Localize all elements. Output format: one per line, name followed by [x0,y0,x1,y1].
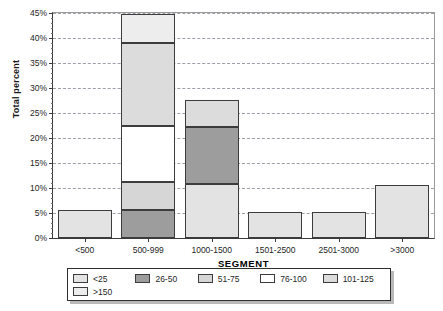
y-tick-minor [51,58,54,59]
y-tick-minor [51,148,54,149]
y-tick-minor [51,123,54,124]
chart-container: Total percent 45%40%35%30%25%20%15%10%5%… [0,0,443,311]
chart-legend: <2526-5051-7576-100101-125 >150 [67,268,391,301]
legend-item[interactable]: <25 [73,272,135,285]
bar-group[interactable]: >3000 [375,13,429,238]
y-tick-label: 45% [30,8,47,18]
y-axis-title: Total percent [11,29,21,149]
y-tick-minor [51,93,54,94]
legend-swatch [198,274,213,283]
y-tick-mark [49,113,53,114]
bar-stack [312,13,366,238]
bar-segment[interactable] [121,126,175,182]
y-tick-mark [49,13,53,14]
legend-swatch [260,274,275,283]
y-tick-mark [49,63,53,64]
y-tick-minor [51,143,54,144]
bar-segment[interactable] [121,14,175,43]
legend-item[interactable]: 101-125 [323,272,385,285]
bar-stack [375,13,429,238]
y-tick-minor [51,168,54,169]
y-tick-minor [51,218,54,219]
y-tick-minor [51,53,54,54]
y-tick-label: 40% [30,33,47,43]
x-tick-label: <500 [75,245,94,255]
legend-item[interactable]: 26-50 [135,272,197,285]
bar-stack [58,13,112,238]
legend-row: >150 [73,285,385,298]
bar-group[interactable]: 2501-3000 [312,13,366,238]
y-tick-mark [49,138,53,139]
y-tick-minor [51,23,54,24]
bar-segment[interactable] [185,184,239,239]
x-tick-mark [85,238,86,242]
y-tick-minor [51,118,54,119]
y-tick-minor [51,98,54,99]
y-tick-mark [49,163,53,164]
bar-segment[interactable] [248,212,302,239]
y-tick-minor [51,228,54,229]
x-tick-mark [212,238,213,242]
bar-group[interactable]: <500 [58,13,112,238]
legend-swatch [135,274,150,283]
bar-group[interactable]: 1000-1500 [185,13,239,238]
y-tick-mark [49,213,53,214]
x-tick-mark [148,238,149,242]
plot-frame: 45%40%35%30%25%20%15%10%5%0%<500500-9991… [52,12,435,239]
y-tick-minor [51,183,54,184]
legend-row: <2526-5051-7576-100101-125 [73,272,385,285]
legend-swatch [73,274,88,283]
y-tick-minor [51,193,54,194]
legend-label: 51-75 [218,274,240,284]
y-tick-minor [51,208,54,209]
y-tick-minor [51,103,54,104]
bar-group[interactable]: 1501-2500 [248,13,302,238]
legend-label: 26-50 [155,274,177,284]
y-tick-minor [51,68,54,69]
y-tick-minor [51,108,54,109]
x-tick-label: 2501-3000 [318,245,359,255]
bar-group[interactable]: 500-999 [121,13,175,238]
bar-segment[interactable] [185,100,239,127]
legend-item[interactable]: 76-100 [260,272,322,285]
legend-swatch [73,287,88,296]
y-tick-minor [51,33,54,34]
bar-stack [185,13,239,238]
y-tick-minor [51,178,54,179]
y-tick-minor [51,43,54,44]
bar-segment[interactable] [58,210,112,238]
y-tick-minor [51,233,54,234]
plot-area: 45%40%35%30%25%20%15%10%5%0%<500500-9991… [53,13,434,238]
bar-segment[interactable] [375,185,429,238]
y-tick-label: 20% [30,133,47,143]
bar-segment[interactable] [312,212,366,238]
y-tick-minor [51,83,54,84]
x-tick-label: 1000-1500 [191,245,232,255]
y-tick-minor [51,198,54,199]
y-tick-minor [51,73,54,74]
bar-stack [121,13,175,238]
legend-item[interactable]: 51-75 [198,272,260,285]
y-tick-label: 10% [30,183,47,193]
y-tick-minor [51,28,54,29]
y-tick-mark [49,88,53,89]
bar-segment[interactable] [185,127,239,184]
bar-segment[interactable] [121,210,175,239]
x-tick-label: >3000 [390,245,414,255]
y-tick-minor [51,203,54,204]
x-tick-mark [275,238,276,242]
y-tick-label: 5% [35,208,47,218]
y-tick-minor [51,223,54,224]
y-tick-minor [51,48,54,49]
y-tick-minor [51,133,54,134]
y-tick-minor [51,153,54,154]
y-tick-minor [51,158,54,159]
legend-label: <25 [93,274,107,284]
y-tick-mark [49,38,53,39]
y-tick-mark [49,238,53,239]
y-tick-mark [49,188,53,189]
legend-item[interactable]: >150 [73,285,136,298]
y-tick-label: 15% [30,158,47,168]
bar-segment[interactable] [121,43,175,126]
bar-segment[interactable] [121,182,175,210]
